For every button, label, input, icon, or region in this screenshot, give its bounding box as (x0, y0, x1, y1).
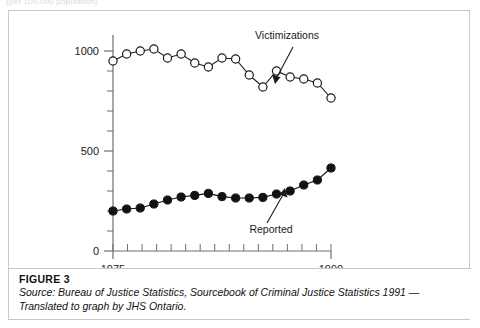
data-point-open (204, 63, 212, 71)
data-point-filled (218, 193, 226, 201)
data-point-filled (232, 194, 240, 202)
series-victimizations (109, 45, 335, 102)
data-point-open (327, 94, 335, 102)
data-point-open (150, 45, 158, 53)
data-point-open (109, 57, 117, 65)
data-point-filled (191, 191, 199, 199)
data-point-open (245, 71, 253, 79)
data-point-open (286, 73, 294, 81)
data-point-filled (313, 176, 321, 184)
data-point-open (300, 75, 308, 83)
figure-source-line-2: Translated to graph by JHS Ontario. (19, 300, 461, 314)
data-point-filled (259, 193, 267, 201)
y-tick-label: 1000 (75, 45, 99, 57)
data-point-filled (272, 190, 280, 198)
data-point-filled (163, 196, 171, 204)
annotation-arrow-head-victimizations (272, 75, 280, 84)
figure-caption-block: FIGURE 3 Source: Bureau of Justice Stati… (9, 268, 471, 319)
data-point-filled (204, 189, 212, 197)
y-axis-tick-labels: 05001000 (75, 45, 99, 257)
data-point-open (136, 47, 144, 55)
series-reported (109, 164, 335, 215)
data-point-open (123, 50, 131, 58)
data-point-open (218, 54, 226, 62)
data-point-open (191, 59, 199, 67)
data-point-filled (300, 181, 308, 189)
figure-container: 05001000 19751990 Victimizations Reporte… (8, 10, 470, 320)
data-point-open (232, 55, 240, 63)
data-point-open (259, 83, 267, 91)
data-point-filled (286, 187, 294, 195)
data-point-open (163, 54, 171, 62)
data-point-filled (109, 207, 117, 215)
annotation-label-victimizations: Victimizations (255, 29, 319, 41)
y-axis-ticks (104, 51, 113, 251)
y-tick-label: 0 (93, 245, 99, 257)
data-point-open (177, 50, 185, 58)
chart-axes (113, 35, 331, 259)
clipped-header-text: (per 100,000 population) (6, 0, 98, 6)
y-tick-label: 500 (81, 145, 99, 157)
data-point-filled (177, 193, 185, 201)
data-point-filled (136, 204, 144, 212)
data-point-filled (327, 164, 335, 172)
annotation-label-reported: Reported (249, 223, 292, 235)
chart-svg: 05001000 19751990 Victimizations Reporte… (9, 11, 471, 279)
data-point-filled (245, 194, 253, 202)
data-point-filled (150, 200, 158, 208)
chart-plot-area: 05001000 19751990 Victimizations Reporte… (9, 11, 471, 279)
x-axis-ticks (113, 244, 331, 251)
data-point-open (313, 79, 321, 87)
data-point-filled (123, 205, 131, 213)
data-point-open (272, 67, 280, 75)
figure-source-line-1: Source: Bureau of Justice Statistics, So… (19, 286, 461, 300)
series-line (113, 168, 331, 211)
figure-title: FIGURE 3 (19, 273, 461, 286)
